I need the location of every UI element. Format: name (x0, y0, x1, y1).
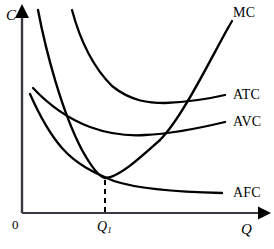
mc-label-leader (228, 21, 232, 28)
y-axis-label: C (6, 8, 16, 23)
atc-curve-label: ATC (233, 88, 260, 102)
avc-curve (33, 88, 225, 135)
atc-curve (72, 10, 225, 103)
mc-curve-label: MC (233, 6, 255, 20)
q1-tick-label: Q1 (97, 220, 112, 234)
x-axis-label: Q (241, 222, 252, 237)
afc-curve-label: AFC (233, 186, 261, 200)
origin-label: 0 (12, 218, 19, 231)
q1-tick-letter: Q (97, 219, 107, 234)
cost-curves-figure: C Q 0 Q1 MC ATC AVC AFC (0, 0, 274, 249)
afc-curve (30, 94, 222, 193)
avc-curve-label: AVC (233, 115, 261, 129)
q1-tick-subscript: 1 (107, 225, 112, 235)
